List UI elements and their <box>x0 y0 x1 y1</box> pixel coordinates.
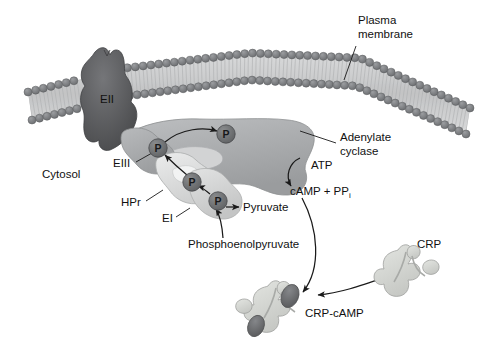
phospholipid-head <box>155 60 163 68</box>
label-adenylate-cyclase: Adenylate cyclase <box>340 131 391 159</box>
label-phosphoenolpyruvate: Phosphoenolpyruvate <box>188 238 299 251</box>
phospholipid-head <box>348 82 356 90</box>
phospholipid-head <box>272 50 280 58</box>
phospholipid-head <box>448 124 456 132</box>
phospholipid-head <box>241 50 249 58</box>
phospholipid-head <box>394 71 402 79</box>
phospholipid-head <box>55 81 63 89</box>
phospholipid-head <box>312 52 320 60</box>
phospholipid-head <box>462 130 470 138</box>
phospholipid-head <box>73 105 81 113</box>
phospholipid-head <box>248 76 256 84</box>
phospholipid-head <box>194 55 202 63</box>
phospholipid-head <box>366 58 374 66</box>
phospholipid-head <box>343 53 351 61</box>
phospholipid-head <box>423 84 431 92</box>
phospholipid-head <box>358 55 366 63</box>
phospholipid-head <box>459 101 467 109</box>
phospholipid-head <box>70 77 78 85</box>
phospholipid-head <box>264 77 272 85</box>
phospholipid-head <box>310 80 318 88</box>
phospholipid-head <box>437 91 445 99</box>
phospholipid-head <box>287 78 295 86</box>
adenylate-cyclase-line2: cyclase <box>340 145 378 157</box>
phospholipid-head <box>409 78 417 86</box>
phosphate-on-ei: P <box>209 192 227 210</box>
label-eiii: EIII <box>113 157 130 170</box>
phospholipid-head <box>139 62 147 70</box>
phospholipid-head <box>416 81 424 89</box>
phospholipid-head <box>240 77 248 85</box>
phosphate-label: P <box>188 176 195 188</box>
label-atp: ATP <box>311 159 333 172</box>
phospholipid-head <box>387 68 395 76</box>
label-eii: EII <box>100 93 114 106</box>
phospholipid-head <box>163 59 171 67</box>
phospholipid-head <box>405 105 413 113</box>
phospholipid-head <box>318 80 326 88</box>
phospholipid-head <box>249 49 257 57</box>
phospholipid-head <box>131 63 139 71</box>
phospholipid-head <box>35 114 43 122</box>
phospholipid-head <box>294 79 302 87</box>
phospholipid-head <box>65 107 73 115</box>
phospholipid-head <box>288 51 296 59</box>
phospholipid-head <box>187 84 195 92</box>
phospholipid-head <box>194 83 202 91</box>
camp-ppi-text: cAMP + PP <box>290 185 349 197</box>
phospholipid-head <box>225 52 233 60</box>
phospholipid-head <box>233 51 241 59</box>
phosphate-label: P <box>222 128 229 140</box>
phospholipid-head <box>225 79 233 87</box>
label-pyruvate: Pyruvate <box>243 201 288 214</box>
phospholipid-head <box>296 51 304 59</box>
phospholipid-head <box>466 104 474 112</box>
phospholipid-head <box>256 49 264 57</box>
phospholipid-head <box>141 90 149 98</box>
phospholipid-head <box>58 109 66 117</box>
camp-ppi-subscript: i <box>349 191 351 200</box>
phospholipid-head <box>186 56 194 64</box>
label-crp-camp: CRP-cAMP <box>305 307 364 320</box>
phospholipid-head <box>325 80 333 88</box>
phospholipid-head <box>217 80 225 88</box>
label-plasma-membrane: Plasma membrane <box>358 14 413 42</box>
phospholipid-head <box>304 52 312 60</box>
phosphate-label: P <box>214 195 221 207</box>
phospholipid-head <box>444 94 452 102</box>
phospholipid-head <box>209 53 217 61</box>
phospholipid-head <box>333 81 341 89</box>
phospholipid-head <box>430 88 438 96</box>
phospholipid-head <box>427 115 435 123</box>
phospholipid-head <box>39 84 47 92</box>
phospholipid-head <box>441 121 449 129</box>
label-crp: CRP <box>417 238 441 251</box>
phospholipid-head <box>384 96 392 104</box>
phospholipid-head <box>356 84 364 92</box>
phospholipid-head <box>271 77 279 85</box>
phospholipid-head <box>256 77 264 85</box>
phospholipid-head <box>373 62 381 70</box>
phospholipid-head <box>171 86 179 94</box>
phospholipid-head <box>391 99 399 107</box>
phospholipid-head <box>377 93 385 101</box>
phosphate-on-eiii: P <box>149 139 167 157</box>
adenylate-cyclase-line1: Adenylate <box>340 131 391 143</box>
phospholipid-head <box>452 97 460 105</box>
phospholipid-head <box>370 90 378 98</box>
phospholipid-head <box>50 110 58 118</box>
phospholipid-head <box>202 82 210 90</box>
phospholipid-head <box>170 58 178 66</box>
crp-camp-complex-icon <box>236 281 303 339</box>
phospholipid-head <box>147 61 155 69</box>
plasma-membrane-line2: membrane <box>358 28 413 40</box>
phospholipid-head <box>217 52 225 60</box>
phospholipid-head <box>133 91 141 99</box>
phosphate-label: P <box>154 142 161 154</box>
phosphate-on-hpr: P <box>183 173 201 191</box>
phospholipid-head <box>43 112 51 120</box>
phospholipid-head <box>32 86 40 94</box>
crp-protein-icon <box>374 245 439 297</box>
label-camp-ppi: cAMP + PPi <box>290 185 351 200</box>
phospholipid-head <box>279 78 287 86</box>
